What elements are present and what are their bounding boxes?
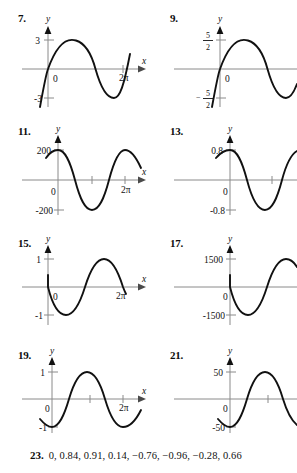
origin-label: 0 — [223, 187, 228, 197]
y-axis-label: y — [217, 14, 223, 24]
origin-label: 0 — [223, 404, 228, 414]
graph-19: y x 1 -1 0 2π — [20, 349, 148, 441]
y-axis-arrow — [45, 26, 52, 34]
y-max-denominator: 2 — [206, 43, 210, 52]
y-max-label: 50 — [214, 368, 224, 378]
graph-15: y x 1 -1 0 2π — [20, 237, 148, 333]
problem-21: 21. y 50 -50 0 — [148, 342, 297, 447]
answer-values: 0, 0.84, 0.91, 0.14, −0.76, −0.96, −0.28… — [49, 450, 242, 461]
y-axis-label: y — [227, 124, 233, 134]
y-axis-arrow — [55, 135, 62, 143]
y-axis-arrow — [227, 245, 234, 253]
problem-13: 13. y 0.8 -0.8 0 — [148, 118, 297, 230]
y-axis-arrow — [45, 245, 52, 253]
y-min-numerator: 5 — [206, 89, 210, 98]
x-axis-label: x — [141, 274, 147, 284]
y-axis-arrow — [217, 26, 224, 34]
y-axis-arrow — [227, 357, 234, 365]
x-axis-label: x — [141, 56, 147, 66]
y-max-label: 5 2 — [203, 31, 213, 52]
graph-21: y 50 -50 0 — [172, 349, 297, 441]
y-min-label: -0.8 — [210, 206, 225, 216]
x-axis-arrow — [138, 284, 146, 291]
x-axis-arrow — [138, 177, 146, 184]
y-axis-label: y — [227, 234, 233, 244]
y-axis-arrow — [227, 135, 234, 143]
answer-key-page: 7. y x 3 -3 0 2π — [0, 0, 297, 473]
y-axis-label: y — [45, 234, 51, 244]
origin-label: 0 — [51, 187, 56, 197]
y-min-label: -1 — [39, 423, 47, 433]
problem-11: 11. y x 200 -200 0 2π — [0, 118, 148, 230]
y-min-label: -1 — [35, 311, 43, 321]
y-max-label: 1500 — [204, 255, 223, 265]
graph-9: y 5 2 − 5 2 0 — [172, 12, 297, 112]
x-axis-label: x — [141, 386, 147, 396]
y-max-label: 1 — [40, 368, 45, 378]
y-axis-label: y — [49, 346, 55, 356]
x-axis-arrow — [138, 66, 146, 73]
origin-label: 0 — [45, 404, 50, 414]
y-min-denominator: 2 — [206, 101, 210, 110]
origin-label: 0 — [53, 74, 58, 84]
problem-17: 17. y 1500 -1500 0 — [148, 230, 297, 342]
y-axis-label: y — [227, 346, 233, 356]
y-max-numerator: 5 — [206, 31, 210, 40]
x-axis-label: x — [141, 167, 147, 177]
origin-label: 0 — [53, 292, 58, 302]
problem-15: 15. y x 1 -1 0 2π — [0, 230, 148, 342]
y-axis-label: y — [55, 124, 61, 134]
graph-17: y 1500 -1500 0 — [172, 237, 297, 333]
graph-11: y x 200 -200 0 2π — [20, 125, 148, 221]
problem-7: 7. y x 3 -3 0 2π — [0, 0, 148, 118]
x-axis-arrow — [138, 396, 146, 403]
y-max-label: 1 — [36, 255, 41, 265]
answer-23-row: 23. 0, 0.84, 0.91, 0.14, −0.76, −0.96, −… — [30, 449, 242, 461]
y-min-label: -3 — [34, 94, 42, 104]
answer-number: 23. — [30, 449, 44, 461]
y-min-sign: − — [196, 93, 201, 102]
y-min-label: -50 — [212, 423, 225, 433]
origin-label: 0 — [225, 74, 230, 84]
problem-19: 19. y x 1 -1 0 2π — [0, 342, 148, 447]
y-axis-arrow — [49, 357, 56, 365]
graph-7: y x 3 -3 0 2π — [20, 12, 148, 112]
graph-13: y 0.8 -0.8 0 — [172, 125, 297, 221]
x-end-label: 2π — [119, 73, 129, 83]
x-end-label: 2π — [116, 291, 126, 301]
y-min-label: -200 — [36, 206, 54, 216]
y-axis-label: y — [45, 14, 51, 24]
origin-label: 0 — [223, 292, 228, 302]
problem-9: 9. y 5 2 − 5 — [148, 0, 297, 118]
y-min-label: − 5 2 — [196, 89, 213, 110]
y-max-label: 0.8 — [211, 146, 223, 156]
y-max-label: 200 — [37, 146, 52, 156]
y-min-label: -1500 — [203, 311, 225, 321]
x-end-label: 2π — [119, 403, 129, 413]
y-max-label: 3 — [35, 36, 40, 46]
x-end-label: 2π — [121, 185, 131, 195]
